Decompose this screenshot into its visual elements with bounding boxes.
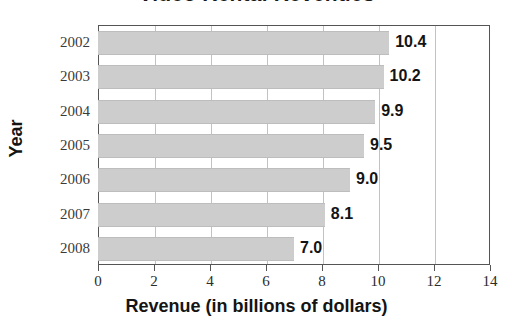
bar-row: 9.0 — [98, 168, 490, 190]
bar — [98, 100, 375, 124]
x-axis-tick-mark — [490, 265, 491, 271]
x-axis-tick-label: 2 — [134, 273, 174, 290]
x-axis-title: Revenue (in billions of dollars) — [0, 296, 513, 317]
bar-value-label: 9.5 — [364, 134, 392, 156]
x-axis-tick-mark — [378, 265, 379, 271]
x-axis-tick-mark — [98, 265, 99, 271]
bar-row: 8.1 — [98, 203, 490, 225]
x-axis-tick-label: 0 — [78, 273, 118, 290]
bar-row: 7.0 — [98, 237, 490, 259]
bar — [98, 203, 325, 227]
x-axis-tick-labels: 02468101214 — [98, 265, 490, 295]
chart-screenshot: Video Rental Revenues 10.410.29.99.59.08… — [0, 0, 513, 326]
bar — [98, 134, 364, 158]
x-axis-tick-mark — [266, 265, 267, 271]
y-axis-tick-label: 2008 — [10, 237, 98, 259]
bar-value-label: 9.0 — [350, 168, 378, 190]
x-axis-tick-mark — [154, 265, 155, 271]
bar-row: 10.4 — [98, 31, 490, 53]
x-axis-tick-label: 14 — [470, 273, 510, 290]
x-axis-tick-mark — [210, 265, 211, 271]
bar-value-label: 10.2 — [384, 65, 421, 87]
bar — [98, 168, 350, 192]
y-axis-title: Year — [6, 99, 27, 179]
x-axis-tick-label: 10 — [358, 273, 398, 290]
bar-row: 9.9 — [98, 100, 490, 122]
bar-value-label: 7.0 — [294, 237, 322, 259]
bars-layer: 10.410.29.99.59.08.17.0 — [98, 25, 490, 265]
bar — [98, 65, 384, 89]
chart-title: Video Rental Revenues — [0, 0, 513, 6]
x-axis-tick-mark — [434, 265, 435, 271]
bar-value-label: 9.9 — [375, 100, 403, 122]
bar-row: 9.5 — [98, 134, 490, 156]
bar-value-label: 8.1 — [325, 203, 353, 225]
bar-row: 10.2 — [98, 65, 490, 87]
y-axis-tick-label: 2002 — [10, 31, 98, 53]
bar — [98, 237, 294, 261]
x-axis-tick-label: 6 — [246, 273, 286, 290]
x-axis-tick-mark — [322, 265, 323, 271]
bar — [98, 31, 389, 55]
y-axis-tick-label: 2003 — [10, 65, 98, 87]
y-axis-tick-label: 2007 — [10, 203, 98, 225]
x-axis-tick-label: 8 — [302, 273, 342, 290]
x-axis-tick-label: 4 — [190, 273, 230, 290]
bar-value-label: 10.4 — [389, 31, 426, 53]
x-axis-tick-label: 12 — [414, 273, 454, 290]
